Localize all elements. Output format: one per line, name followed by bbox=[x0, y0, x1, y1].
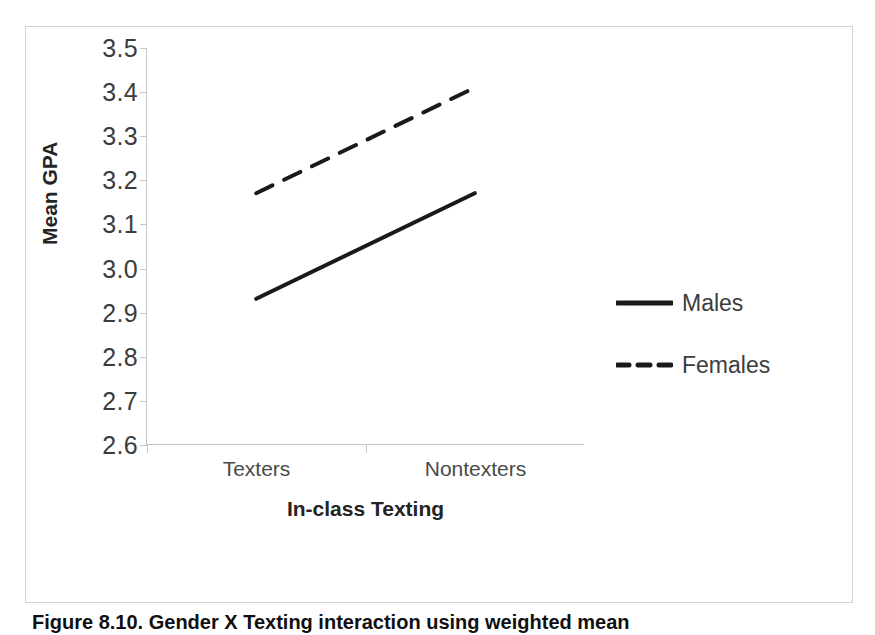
figure-container: Mean GPA 2.62.72.82.93.03.13.23.33.43.5 … bbox=[0, 0, 875, 635]
y-axis-tick-label: 2.8 bbox=[102, 342, 138, 371]
y-axis-tick-mark bbox=[140, 136, 147, 137]
y-axis-tick-label: 2.6 bbox=[102, 431, 138, 460]
y-axis-tick-label: 3.1 bbox=[102, 210, 138, 239]
y-axis-tick-mark bbox=[140, 48, 147, 49]
y-axis-tick-mark bbox=[140, 180, 147, 181]
chart-legend: MalesFemales bbox=[616, 272, 836, 396]
y-axis-tick-mark bbox=[140, 445, 147, 446]
series-line-males bbox=[256, 193, 475, 299]
plot-area: 2.62.72.82.93.03.13.23.33.43.5 TextersNo… bbox=[146, 48, 584, 445]
legend-label: Males bbox=[682, 290, 743, 317]
series-lines bbox=[147, 48, 584, 444]
y-axis-tick-label: 3.4 bbox=[102, 78, 138, 107]
y-axis-tick-label: 2.9 bbox=[102, 298, 138, 327]
y-axis-tick-label: 2.7 bbox=[102, 386, 138, 415]
legend-entry[interactable]: Females bbox=[616, 334, 836, 396]
x-axis-category-label: Texters bbox=[223, 457, 291, 481]
y-axis-tick-mark bbox=[140, 357, 147, 358]
y-axis-tick-mark bbox=[140, 224, 147, 225]
y-axis-tick-mark bbox=[140, 401, 147, 402]
legend-entry[interactable]: Males bbox=[616, 272, 836, 334]
y-axis-tick-mark bbox=[140, 269, 147, 270]
chart-frame: Mean GPA 2.62.72.82.93.03.13.23.33.43.5 … bbox=[25, 26, 853, 603]
x-axis-category-label: Nontexters bbox=[425, 457, 527, 481]
y-axis-tick-label: 3.2 bbox=[102, 166, 138, 195]
y-axis-title: Mean GPA bbox=[38, 142, 62, 245]
y-axis-tick-label: 3.0 bbox=[102, 254, 138, 283]
y-axis-tick-mark bbox=[140, 313, 147, 314]
legend-line-swatch-females bbox=[616, 359, 673, 371]
y-axis-tick-mark bbox=[140, 92, 147, 93]
y-axis-tick-label: 3.3 bbox=[102, 122, 138, 151]
legend-label: Females bbox=[682, 352, 770, 379]
legend-line-swatch-males bbox=[616, 297, 673, 309]
y-axis-tick-label: 3.5 bbox=[102, 34, 138, 63]
figure-caption: Figure 8.10. Gender X Texting interactio… bbox=[32, 611, 862, 635]
x-axis-tick-mark bbox=[366, 445, 367, 453]
series-line-females bbox=[256, 88, 475, 194]
x-axis-origin-tick-mark bbox=[147, 445, 148, 453]
x-axis-title: In-class Texting bbox=[287, 497, 444, 521]
